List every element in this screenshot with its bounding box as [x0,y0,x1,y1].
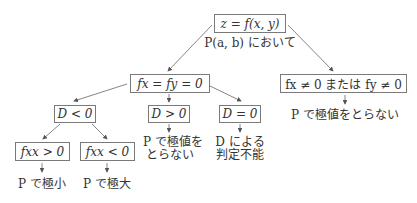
connector-arrows [0,0,417,203]
critical-point-condition-label: fx = fy = 0 [137,77,202,91]
d-zero-box: D = 0 [219,105,261,123]
d-positive-result-line2: とらない [143,149,197,162]
root-caption: P(a, b) において [203,37,297,50]
fxx-positive-box: fxx > 0 [15,142,70,161]
root-function-label: z = f(x, y) [221,17,280,31]
fxx-negative-box: fxx < 0 [80,142,135,161]
fxx-positive-label: fxx > 0 [21,145,64,159]
d-positive-box: D > 0 [148,105,190,123]
critical-point-condition-box: fx = fy = 0 [130,74,210,93]
d-negative-box: D < 0 [54,105,96,123]
fxx-negative-label: fxx < 0 [86,145,129,159]
root-node-box: z = f(x, y) [214,14,286,33]
local-minimum-result: P で極小 [13,178,71,191]
nonzero-gradient-result: P で極値をとらない [285,109,405,122]
d-negative-label: D < 0 [58,107,93,121]
nonzero-gradient-condition-box: fx ≠ 0 または fy ≠ 0 [280,74,407,93]
d-zero-result-line2: 判定不能 [214,149,266,162]
d-positive-label: D > 0 [152,107,187,121]
d-zero-label: D = 0 [223,107,258,121]
nonzero-gradient-condition-label: fx ≠ 0 または fy ≠ 0 [285,75,402,92]
local-maximum-result: P で極大 [78,178,136,191]
